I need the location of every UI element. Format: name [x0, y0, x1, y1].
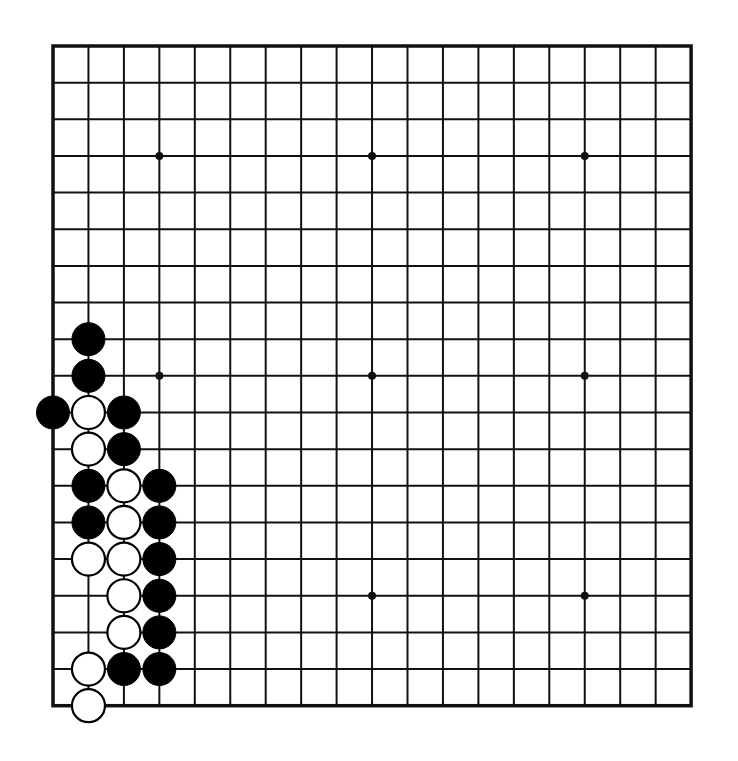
board-intersection[interactable] [106, 64, 141, 101]
board-intersection[interactable] [532, 138, 567, 175]
board-intersection[interactable] [638, 577, 673, 614]
board-intersection[interactable] [319, 614, 354, 651]
board-intersection[interactable] [673, 431, 708, 468]
board-intersection[interactable] [35, 174, 70, 211]
board-intersection[interactable] [248, 248, 283, 285]
board-intersection[interactable] [319, 64, 354, 101]
board-intersection[interactable] [177, 358, 212, 395]
board-intersection[interactable] [461, 614, 496, 651]
board-intersection[interactable] [638, 321, 673, 358]
board-intersection[interactable] [461, 174, 496, 211]
board-intersection[interactable] [319, 248, 354, 285]
board-intersection[interactable] [390, 504, 425, 541]
board-intersection[interactable] [532, 174, 567, 211]
board-intersection[interactable] [425, 614, 460, 651]
board-intersection[interactable] [532, 577, 567, 614]
board-intersection[interactable] [567, 138, 602, 175]
board-intersection[interactable] [248, 64, 283, 101]
board-intersection[interactable] [461, 467, 496, 504]
board-intersection[interactable] [638, 174, 673, 211]
board-intersection[interactable] [177, 577, 212, 614]
board-intersection[interactable] [177, 101, 212, 138]
board-intersection[interactable] [532, 394, 567, 431]
board-intersection[interactable] [425, 211, 460, 248]
board-intersection[interactable] [390, 174, 425, 211]
board-intersection[interactable] [71, 284, 106, 321]
board-intersection[interactable] [602, 101, 637, 138]
board-intersection[interactable] [390, 577, 425, 614]
board-intersection[interactable] [319, 394, 354, 431]
board-intersection[interactable] [283, 211, 318, 248]
board-intersection[interactable] [248, 101, 283, 138]
board-intersection[interactable] [496, 248, 531, 285]
board-intersection[interactable] [283, 101, 318, 138]
board-intersection[interactable] [248, 358, 283, 395]
board-intersection[interactable] [354, 504, 389, 541]
board-intersection[interactable] [283, 541, 318, 578]
board-intersection[interactable] [177, 651, 212, 688]
board-intersection[interactable] [319, 358, 354, 395]
board-intersection[interactable] [425, 64, 460, 101]
black-stone-icon[interactable] [72, 323, 105, 356]
board-intersection[interactable] [567, 687, 602, 724]
board-intersection[interactable] [354, 321, 389, 358]
board-intersection[interactable] [461, 358, 496, 395]
board-intersection[interactable] [213, 64, 248, 101]
board-intersection[interactable] [673, 394, 708, 431]
board-intersection[interactable] [35, 321, 70, 358]
board-intersection[interactable] [283, 651, 318, 688]
board-intersection[interactable] [71, 28, 106, 65]
board-intersection[interactable] [106, 248, 141, 285]
board-intersection[interactable] [390, 541, 425, 578]
board-intersection[interactable] [35, 614, 70, 651]
board-intersection[interactable] [106, 284, 141, 321]
board-intersection[interactable] [213, 504, 248, 541]
board-intersection[interactable] [354, 101, 389, 138]
board-intersection[interactable] [567, 541, 602, 578]
board-intersection[interactable] [496, 394, 531, 431]
board-intersection[interactable] [142, 64, 177, 101]
board-intersection[interactable] [425, 138, 460, 175]
board-intersection[interactable] [35, 284, 70, 321]
board-intersection[interactable] [71, 138, 106, 175]
board-intersection[interactable] [213, 321, 248, 358]
black-stone-icon[interactable] [107, 433, 140, 466]
board-intersection[interactable] [106, 28, 141, 65]
board-intersection[interactable] [567, 28, 602, 65]
board-intersection[interactable] [71, 64, 106, 101]
board-intersection[interactable] [319, 174, 354, 211]
board-intersection[interactable] [602, 138, 637, 175]
board-intersection[interactable] [142, 138, 177, 175]
board-intersection[interactable] [496, 64, 531, 101]
board-intersection[interactable] [106, 101, 141, 138]
board-intersection[interactable] [638, 431, 673, 468]
board-intersection[interactable] [177, 467, 212, 504]
board-intersection[interactable] [496, 541, 531, 578]
board-intersection[interactable] [354, 138, 389, 175]
board-intersection[interactable] [390, 321, 425, 358]
board-intersection[interactable] [496, 138, 531, 175]
board-intersection[interactable] [142, 394, 177, 431]
board-intersection[interactable] [496, 211, 531, 248]
board-intersection[interactable] [213, 211, 248, 248]
board-intersection[interactable] [71, 577, 106, 614]
board-intersection[interactable] [602, 248, 637, 285]
board-intersection[interactable] [673, 467, 708, 504]
board-intersection[interactable] [461, 138, 496, 175]
black-stone-icon[interactable] [107, 396, 140, 429]
white-stone-icon[interactable] [107, 506, 140, 539]
board-intersection[interactable] [673, 651, 708, 688]
board-intersection[interactable] [496, 321, 531, 358]
black-stone-icon[interactable] [37, 396, 70, 429]
board-intersection[interactable] [461, 321, 496, 358]
board-intersection[interactable] [390, 64, 425, 101]
board-intersection[interactable] [319, 211, 354, 248]
board-intersection[interactable] [390, 651, 425, 688]
board-intersection[interactable] [638, 248, 673, 285]
board-intersection[interactable] [319, 651, 354, 688]
board-intersection[interactable] [142, 101, 177, 138]
board-intersection[interactable] [354, 358, 389, 395]
board-intersection[interactable] [390, 614, 425, 651]
board-intersection[interactable] [390, 248, 425, 285]
board-intersection[interactable] [496, 284, 531, 321]
